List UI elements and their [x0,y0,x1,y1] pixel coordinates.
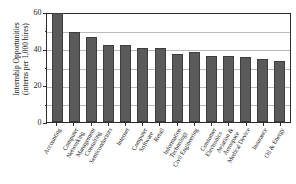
x-axis-label: Internet [116,127,131,147]
x-label-cell: Semiconductors [100,126,117,184]
x-axis-label-line: Internet [116,127,131,147]
bar-item [186,14,203,122]
x-axis-labels: AccountingComputerNetworkingManagementCo… [46,126,291,184]
bar [257,59,268,121]
bar-item [49,14,66,122]
bar-item [271,14,288,122]
bar [86,37,97,121]
bar-item [100,14,117,122]
bar-item [66,14,83,122]
bar-item [169,14,186,122]
bar-chart: Internship Opportunities (interns per 1,… [0,0,296,184]
x-axis-label: Retail [153,127,166,143]
bar [137,48,148,121]
y-axis-title-line1: Internship Opportunities [12,22,21,95]
bar [103,45,114,122]
y-tick-label: 0 [26,118,42,128]
y-tick-label: 40 [26,45,42,55]
bar-item [83,14,100,122]
bar [52,13,63,121]
bar-item [220,14,237,122]
bar-item [254,14,271,122]
x-label-cell: Medical Device [237,126,254,184]
bar [240,57,251,121]
x-label-cell: Civil Engineering [186,126,203,184]
bar-series [47,14,290,122]
bar-item [134,14,151,122]
x-label-cell: ComputerSoftware [134,126,151,184]
bar [172,54,183,122]
plot-area: 0204060 [46,13,291,123]
bar-item [237,14,254,122]
bar-item [203,14,220,122]
y-tick-label: 60 [26,8,42,18]
bar [274,61,285,122]
x-label-cell: ConsumerElectronics [203,126,220,184]
x-label-cell: Internet [117,126,134,184]
y-tick-label: 20 [26,81,42,91]
bar-item [117,14,134,122]
x-label-cell: Oil & Energy [272,126,289,184]
bar [206,56,217,122]
bar [120,45,131,122]
bar [189,52,200,122]
bar [69,32,80,122]
bar [223,56,234,122]
bar-item [151,14,168,122]
x-axis-label-line: Retail [153,127,166,143]
bar [155,48,166,121]
